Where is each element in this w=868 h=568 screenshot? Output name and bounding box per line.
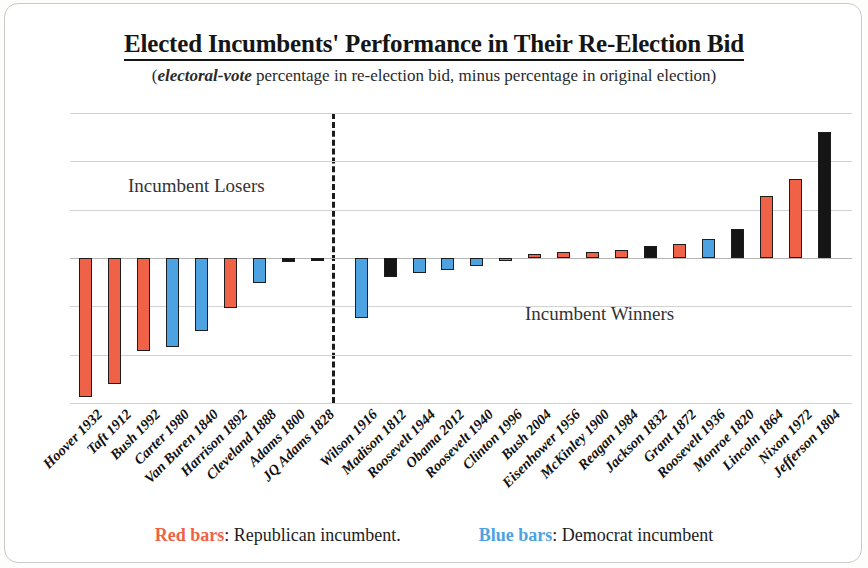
bar-cleveland-1888: [253, 258, 266, 283]
gridline: [70, 355, 852, 356]
gridline: [70, 113, 852, 114]
bar-carter-1980: [166, 258, 179, 347]
page-subtitle: (electoral-vote percentage in re-electio…: [0, 66, 868, 86]
x-axis-labels: Hoover 1932Taft 1912Bush 1992Carter 1980…: [70, 406, 852, 526]
bar-jackson-1832: [644, 246, 657, 258]
chart-page: Elected Incumbents' Performance in Their…: [0, 0, 868, 568]
bar-nixon-1972: [789, 179, 802, 258]
legend-blue-label: Blue bars: [479, 525, 553, 545]
page-title: Elected Incumbents' Performance in Their…: [0, 30, 868, 58]
legend: Red bars: Republican incumbent.Blue bars…: [0, 525, 868, 546]
bar-clinton-1996: [499, 258, 512, 261]
bar-harrison-1892: [224, 258, 237, 308]
gridline: [70, 258, 852, 259]
gridline: [70, 403, 852, 404]
bar-wilson-1916: [355, 258, 368, 318]
subtitle-rest: percentage in re-election bid, minus per…: [252, 66, 716, 85]
bar-jefferson-1804: [818, 132, 831, 258]
legend-red-text: : Republican incumbent.: [224, 525, 400, 545]
bar-roosevelt-1944: [413, 258, 426, 273]
annotation-incumbent-losers: Incumbent Losers: [128, 175, 265, 197]
bar-adams-1800: [282, 258, 295, 262]
plot-area: Incumbent Losers Incumbent Winners: [70, 113, 852, 403]
subtitle-emphasis: electoral-vote: [157, 66, 251, 85]
bar-hoover-1932: [79, 258, 92, 397]
bar-madison-1812: [384, 258, 397, 277]
bar-eisenhower-1956: [557, 252, 570, 258]
gridline: [70, 306, 852, 307]
legend-red-label: Red bars: [155, 525, 225, 545]
bar-reagan-1984: [615, 250, 628, 258]
bar-van-buren-1840: [195, 258, 208, 331]
bar-roosevelt-1940: [470, 258, 483, 266]
page-title-text: Elected Incumbents' Performance in Their…: [124, 30, 744, 61]
bar-taft-1912: [108, 258, 121, 384]
bar-bush-1992: [137, 258, 150, 351]
bar-obama-2012: [441, 258, 454, 270]
bar-bush-2004: [528, 254, 541, 258]
bar-lincoln-1864: [760, 196, 773, 258]
legend-blue-text: : Democrat incumbent: [552, 525, 713, 545]
bar-monroe-1820: [731, 229, 744, 258]
bar-grant-1872: [673, 244, 686, 258]
bar-mckinley-1900: [586, 252, 599, 258]
gridline: [70, 210, 852, 211]
bar-jq-adams-1828: [311, 258, 324, 261]
gridline: [70, 161, 852, 162]
bar-roosevelt-1936: [702, 239, 715, 258]
